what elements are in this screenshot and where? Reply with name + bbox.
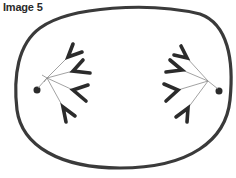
chromosome [68, 44, 82, 57]
chromosome [176, 108, 188, 122]
chromosome [166, 60, 182, 72]
left-chromosomes [63, 44, 90, 122]
right-centrosome [216, 88, 223, 95]
chromosome [164, 84, 178, 101]
left-centrosome [34, 87, 41, 94]
right-spindle-fibers [178, 58, 218, 108]
chromosome [73, 60, 90, 73]
right-chromosomes [164, 46, 188, 122]
chromosome [174, 46, 187, 58]
anaphase-cell-diagram [0, 0, 236, 178]
left-spindle-pole [34, 44, 91, 122]
left-spindle-fibers [38, 57, 73, 107]
right-spindle-pole [164, 46, 223, 122]
chromosome [63, 107, 75, 122]
chromosome [73, 85, 88, 101]
cell-membrane [16, 7, 231, 168]
